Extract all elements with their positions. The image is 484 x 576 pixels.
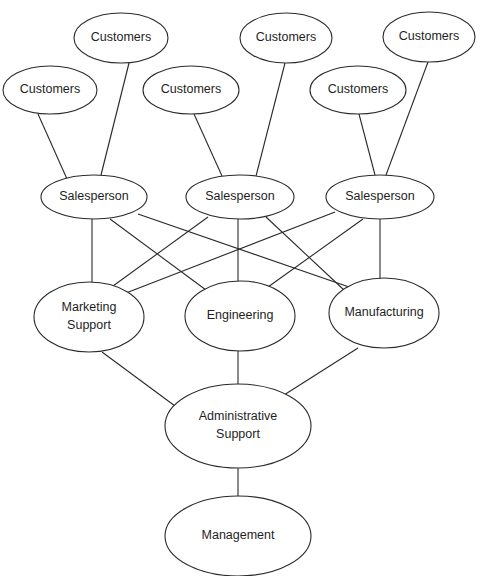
organization-diagram: CustomersCustomersCustomersCustomersCust… — [0, 0, 484, 576]
node-cust2: Customers — [3, 66, 97, 114]
node-manufacturing: Manufacturing — [329, 278, 439, 348]
edge-manufacturing-admin — [284, 348, 358, 395]
node-label: Support — [67, 318, 111, 332]
edge-sales2-marketing — [113, 217, 208, 286]
node-label: Customers — [399, 29, 459, 43]
node-marketing: MarketingSupport — [34, 282, 144, 352]
edge-marketing-admin — [102, 352, 175, 406]
node-label: Manufacturing — [344, 305, 423, 319]
diagram-nodes: CustomersCustomersCustomersCustomersCust… — [3, 12, 475, 576]
node-label: Salesperson — [59, 189, 129, 203]
node-label: Customers — [256, 30, 316, 44]
node-admin: AdministrativeSupport — [165, 384, 311, 468]
node-label: Marketing — [62, 300, 117, 314]
node-label: Salesperson — [345, 189, 415, 203]
node-label: Engineering — [207, 308, 274, 322]
edge-cust1-sales1 — [101, 63, 129, 175]
edge-sales2-manufacturing — [266, 217, 344, 290]
node-management: Management — [165, 496, 311, 576]
node-sales1: Salesperson — [41, 175, 147, 219]
node-label: Customers — [328, 82, 388, 96]
edge-sales1-manufacturing — [138, 214, 352, 288]
node-cust6: Customers — [310, 66, 406, 114]
node-cust3: Customers — [143, 66, 239, 114]
edge-sales3-engineering — [268, 219, 363, 287]
node-engineering: Engineering — [185, 281, 295, 351]
node-ellipse — [165, 384, 311, 468]
edge-cust2-sales1 — [38, 114, 67, 179]
edge-sales1-engineering — [110, 219, 206, 290]
node-label: Customers — [20, 82, 80, 96]
node-label: Management — [202, 528, 275, 542]
edge-cust6-sales3 — [359, 114, 375, 175]
node-label: Customers — [161, 82, 221, 96]
node-cust1: Customers — [74, 13, 168, 63]
node-sales2: Salesperson — [186, 175, 294, 219]
edge-cust3-sales2 — [194, 114, 222, 176]
node-ellipse — [34, 282, 144, 352]
node-label: Support — [216, 427, 260, 441]
node-label: Salesperson — [205, 189, 275, 203]
node-cust4: Customers — [240, 13, 332, 63]
node-label: Administrative — [199, 409, 278, 423]
edge-cust4-sales2 — [256, 63, 285, 176]
node-cust5: Customers — [383, 12, 475, 62]
node-label: Customers — [91, 30, 151, 44]
node-sales3: Salesperson — [326, 175, 434, 219]
